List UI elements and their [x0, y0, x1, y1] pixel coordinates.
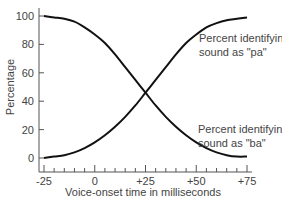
y-tick-label: 20 — [22, 124, 34, 136]
pa-annotation-line1: Percent identifying — [199, 32, 282, 44]
y-tick-label: 100 — [16, 10, 34, 22]
labels: Percentage Voice-onset time in milliseco… — [4, 32, 282, 198]
x-tick-label: +75 — [238, 175, 257, 187]
ba-annotation-line2: sound as "ba" — [198, 137, 266, 149]
y-axis-label: Percentage — [4, 59, 16, 115]
ba-annotation-line1: Percent identifying — [198, 123, 282, 135]
y-tick-label: 0 — [28, 152, 34, 164]
pa-annotation-line2: sound as "pa" — [199, 46, 267, 58]
line-chart: 020406080100-250+25+50+75 Percentage Voi… — [0, 0, 282, 205]
x-axis-label: Voice-onset time in milliseconds — [65, 186, 221, 198]
x-tick-label: -25 — [36, 175, 52, 187]
y-tick-label: 80 — [22, 38, 34, 50]
y-tick-label: 60 — [22, 67, 34, 79]
y-tick-label: 40 — [22, 95, 34, 107]
